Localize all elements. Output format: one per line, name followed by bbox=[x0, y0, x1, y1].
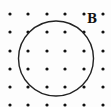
field-dot bbox=[101, 103, 104, 106]
field-dot bbox=[26, 103, 29, 106]
field-dot bbox=[63, 103, 66, 106]
field-dot bbox=[82, 85, 85, 88]
field-dot bbox=[45, 85, 48, 88]
field-dot bbox=[8, 49, 11, 52]
field-dot bbox=[82, 103, 85, 106]
field-dot bbox=[8, 12, 11, 15]
field-dot bbox=[26, 85, 29, 88]
field-dot bbox=[101, 49, 104, 52]
field-dot bbox=[82, 49, 85, 52]
field-dot bbox=[45, 30, 48, 33]
field-dot bbox=[101, 12, 104, 15]
field-dot bbox=[8, 30, 11, 33]
field-dot bbox=[45, 49, 48, 52]
field-label-b: B bbox=[87, 13, 97, 25]
field-dot bbox=[63, 12, 66, 15]
field-dot bbox=[82, 67, 85, 70]
field-dot bbox=[45, 67, 48, 70]
field-dot bbox=[45, 12, 48, 15]
field-dot bbox=[63, 30, 66, 33]
field-dots bbox=[8, 12, 104, 106]
magnetic-field-diagram: B bbox=[0, 0, 111, 107]
field-dot bbox=[82, 12, 85, 15]
field-dot bbox=[63, 67, 66, 70]
circular-region bbox=[19, 21, 94, 96]
field-dot bbox=[63, 85, 66, 88]
field-dot bbox=[8, 67, 11, 70]
field-dot bbox=[101, 85, 104, 88]
field-dot bbox=[45, 103, 48, 106]
field-dot bbox=[8, 103, 11, 106]
field-dot bbox=[101, 30, 104, 33]
field-dot bbox=[26, 12, 29, 15]
field-dot bbox=[26, 67, 29, 70]
field-dot bbox=[26, 49, 29, 52]
field-dot bbox=[8, 85, 11, 88]
field-dot bbox=[63, 49, 66, 52]
field-dot bbox=[101, 67, 104, 70]
